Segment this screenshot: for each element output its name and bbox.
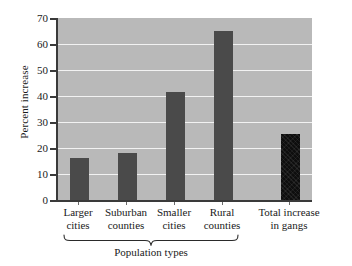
y-tick-label-20: 20 bbox=[20, 143, 48, 154]
group-brace-icon bbox=[62, 234, 240, 246]
y-tick-label-30: 30 bbox=[20, 117, 48, 128]
gridline-20 bbox=[58, 148, 312, 149]
x-axis-label-line-2: in gangs bbox=[248, 219, 330, 232]
bar-rural-counties bbox=[214, 31, 233, 200]
plot-area bbox=[56, 18, 312, 202]
bar-smaller-cities bbox=[166, 92, 185, 200]
gridline-40 bbox=[58, 96, 312, 97]
y-tick-label-0: 0 bbox=[20, 195, 48, 206]
y-tick-label-70: 70 bbox=[20, 13, 48, 24]
x-tick-mark-smaller-cities bbox=[174, 202, 175, 205]
x-tick-mark-suburban-counties bbox=[126, 202, 127, 205]
gridline-10 bbox=[58, 174, 312, 175]
x-tick-mark-rural-counties bbox=[222, 202, 223, 205]
y-tick-label-60: 60 bbox=[20, 39, 48, 50]
y-tick-label-40: 40 bbox=[20, 91, 48, 102]
gridline-50 bbox=[58, 70, 312, 71]
x-axis-label-line-1: Total increase bbox=[248, 206, 330, 219]
x-axis-label-total-increase-in-gangs: Total increase in gangs bbox=[248, 206, 330, 232]
bar-suburban-counties bbox=[118, 153, 137, 200]
bar-total-increase-in-gangs bbox=[281, 134, 300, 200]
bar-larger-cities bbox=[70, 158, 89, 200]
x-axis-group-title: Population types bbox=[62, 246, 240, 259]
y-tick-label-10: 10 bbox=[20, 169, 48, 180]
x-tick-mark-larger-cities bbox=[78, 202, 79, 205]
gridline-60 bbox=[58, 44, 312, 45]
x-tick-mark-total-increase bbox=[289, 202, 290, 205]
gridline-30 bbox=[58, 122, 312, 123]
bar-chart-figure: Percent increase 70 60 50 40 30 20 10 0 … bbox=[0, 0, 352, 266]
y-tick-label-50: 50 bbox=[20, 65, 48, 76]
